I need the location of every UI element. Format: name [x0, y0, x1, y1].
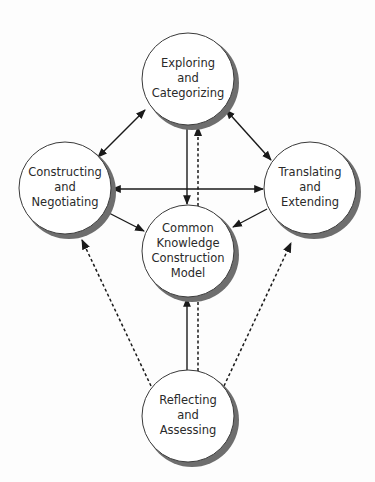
node-right-line-2: and	[299, 180, 321, 194]
node-bottom-line-2: and	[177, 408, 199, 422]
node-right: Translating and Extending	[264, 142, 361, 239]
node-center-line-3: Construction	[151, 251, 224, 265]
node-bottom-line-1: Reflecting	[159, 393, 216, 407]
node-top-line-2: and	[177, 71, 199, 85]
node-right-line-3: Extending	[281, 195, 339, 209]
node-top-line-3: Categorizing	[152, 86, 225, 100]
edge-top-left-double	[98, 110, 145, 157]
node-bottom-line-3: Assessing	[160, 423, 217, 437]
node-center-line-4: Model	[171, 266, 206, 280]
node-center-line-1: Common	[162, 221, 214, 235]
node-top-line-1: Exploring	[161, 56, 215, 70]
edge-right-to-center	[233, 209, 267, 227]
node-center-line-2: Knowledge	[156, 236, 219, 250]
node-left-line-2: and	[54, 180, 76, 194]
node-left-line-1: Constructing	[28, 165, 102, 179]
node-right-line-1: Translating	[278, 165, 342, 179]
node-center: Common Knowledge Construction Model	[142, 205, 239, 302]
node-left-line-3: Negotiating	[31, 195, 98, 209]
knowledge-construction-diagram: Exploring and Categorizing Constructing …	[0, 0, 375, 482]
node-left: Constructing and Negotiating	[19, 142, 116, 239]
edge-top-right-double	[226, 110, 271, 160]
edge-bottom-to-left-dashed	[82, 240, 151, 386]
edge-left-to-center	[107, 212, 144, 231]
node-top: Exploring and Categorizing	[142, 33, 239, 130]
